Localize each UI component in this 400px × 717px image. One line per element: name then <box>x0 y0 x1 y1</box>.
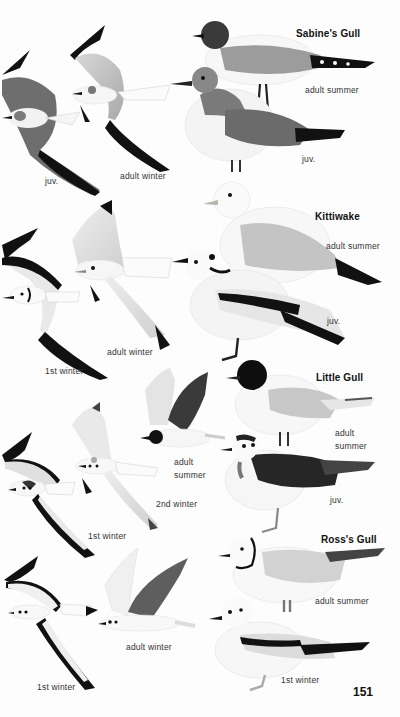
figure-label: juv. <box>302 154 315 164</box>
figure-label: adult winter <box>126 642 172 652</box>
kittiwake-adult-winter-flight <box>72 200 172 350</box>
little-gull-adult-summer-flight <box>140 368 225 447</box>
bird-illustrations <box>0 0 400 717</box>
figure-label: 1st winter <box>88 531 126 541</box>
ross-gull-adult-winter-flight <box>98 548 195 631</box>
sabines-gull-adult-winter-flight <box>70 25 170 172</box>
little-gull-1st-winter-flight <box>2 432 95 558</box>
field-guide-page: Sabine's Gull Kittiwake Little Gull Ross… <box>0 0 400 717</box>
species-title-little-gull: Little Gull <box>316 372 363 383</box>
species-title-ross-gull: Ross's Gull <box>321 534 377 545</box>
figure-label: 1st winter <box>281 675 319 685</box>
figure-label: juv. <box>330 495 343 505</box>
species-title-sabines-gull: Sabine's Gull <box>296 28 360 39</box>
species-title-kittiwake: Kittiwake <box>315 211 360 222</box>
figure-label: adult winter <box>120 171 166 181</box>
figure-label: juv. <box>45 176 58 186</box>
sabines-gull-juv-flight <box>2 50 100 196</box>
figure-label: adult summer <box>315 596 369 606</box>
figure-label: juv. <box>327 316 340 326</box>
figure-label: adult summer <box>305 85 359 95</box>
figure-label: adult summer <box>174 456 214 482</box>
figure-label: 1st winter <box>37 682 75 692</box>
figure-label: adult summer <box>335 427 375 453</box>
figure-label: 2nd winter <box>156 499 197 509</box>
little-gull-2nd-winter-flight <box>72 402 158 530</box>
figure-label: adult summer <box>326 241 380 251</box>
figure-label: 1st winter <box>45 366 83 376</box>
ross-gull-1st-winter-flight <box>4 556 98 690</box>
page-number: 151 <box>353 685 373 699</box>
figure-label: adult winter <box>107 347 153 357</box>
